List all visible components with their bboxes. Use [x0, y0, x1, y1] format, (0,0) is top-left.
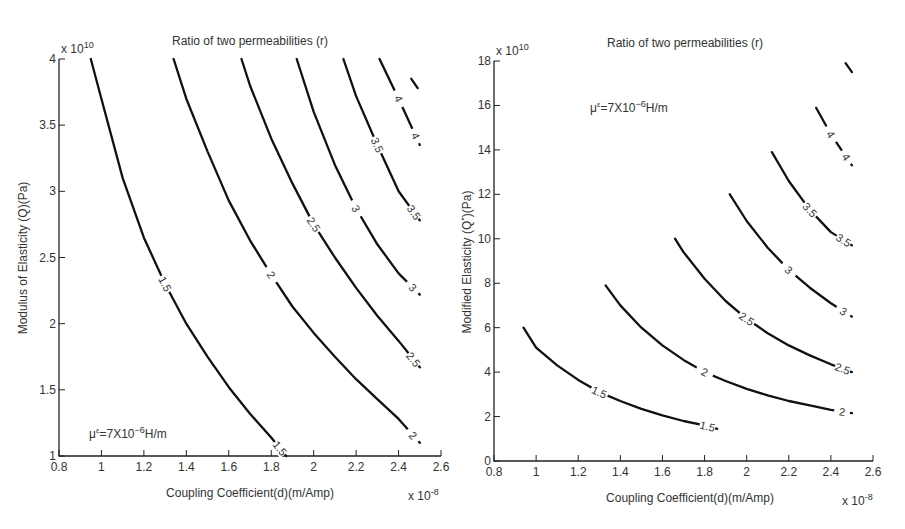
x-tick-label: 2.4	[390, 460, 407, 474]
left-mu-annotation: με=7X10−6H/m	[89, 425, 167, 441]
y-tick-label: 3.5	[39, 118, 56, 132]
x-tick-label: 2	[743, 465, 750, 479]
contour-line-r-1.5	[91, 59, 286, 456]
y-tick-label: 1.5	[39, 383, 56, 397]
contour-line-r-4.5	[411, 79, 417, 88]
y-tick-label: 10	[478, 232, 492, 246]
x-tick-label: 1	[533, 465, 540, 479]
x-tick-label: 1.4	[612, 465, 629, 479]
contour-label: 2.5	[304, 215, 322, 234]
x-tick-label: 1.8	[696, 465, 713, 479]
contour-label: 1.5	[699, 418, 717, 434]
contour-label: 2.5	[833, 360, 852, 377]
x-tick-label: 1.2	[136, 460, 153, 474]
contour-line-r-2.5	[242, 59, 420, 367]
contour-line-r-2.5	[675, 239, 852, 372]
left-x-multiplier: x 10-8	[408, 487, 439, 503]
y-tick-label: 1	[49, 449, 56, 463]
x-tick-label: 1.6	[220, 460, 237, 474]
x-tick-label: 1.4	[178, 460, 195, 474]
contour-label: 3.5	[834, 231, 853, 249]
x-tick-label: 2.2	[780, 465, 797, 479]
right-contour-lines: 1.51.5222.52.5333.53.544	[524, 63, 856, 434]
y-tick-label: 14	[478, 143, 492, 157]
x-tick-label: 1.2	[570, 465, 587, 479]
right-x-multiplier: x 10-8	[842, 492, 873, 508]
y-tick-label: 3	[49, 184, 56, 198]
y-tick-label: 12	[478, 187, 492, 201]
right-contour-plot: Ratio of two permeabilities (r) x 1010 0…	[459, 36, 882, 508]
contour-line-r-1.5	[524, 328, 718, 429]
contour-line-r-4.5	[846, 63, 852, 72]
left-y-multiplier: x 1010	[61, 40, 94, 56]
x-tick-label: 2.6	[433, 460, 450, 474]
x-tick-label: 2.4	[823, 465, 840, 479]
y-tick-label: 2	[49, 317, 56, 331]
right-mu-annotation: με=7X10−6H/m	[590, 99, 668, 115]
x-tick-label: 2.6	[865, 465, 882, 479]
left-contour-lines: 1.51.5222.52.5333.53.544	[91, 59, 425, 458]
left-y-axis-label: Modulus of Elasticity (Q)(Pa)	[16, 182, 30, 335]
y-tick-label: 4	[49, 52, 56, 66]
contour-line-r-3	[730, 194, 852, 316]
y-tick-label: 4	[484, 365, 491, 379]
y-tick-label: 2.5	[39, 251, 56, 265]
y-tick-label: 18	[478, 54, 492, 68]
x-tick-label: 2	[310, 460, 317, 474]
y-tick-label: 0	[484, 454, 491, 468]
axis-lines	[59, 59, 441, 456]
x-tick-label: 2.2	[348, 460, 365, 474]
y-tick-label: 8	[484, 276, 491, 290]
right-y-multiplier: x 1010	[496, 42, 529, 58]
left-plot-title: Ratio of two permeabilities (r)	[172, 34, 328, 48]
x-tick-label: 1.8	[263, 460, 280, 474]
right-x-axis-label: Coupling Coefficient(d)(m/Amp)	[606, 491, 774, 505]
right-plot-title: Ratio of two permeabilities (r)	[607, 36, 763, 50]
left-x-axis-label: Coupling Coefficient(d)(m/Amp)	[166, 486, 334, 500]
y-tick-label: 16	[478, 98, 492, 112]
left-contour-plot: Ratio of two permeabilities (r) x 1010 0…	[16, 34, 450, 503]
contour-label: 3.5	[405, 203, 424, 222]
y-tick-label: 2	[484, 410, 491, 424]
axis-lines	[494, 61, 873, 461]
x-tick-label: 1.6	[654, 465, 671, 479]
right-y-axis-label: Modified Elasticity (Q*)(Pa)	[459, 191, 474, 334]
y-tick-label: 6	[484, 321, 491, 335]
x-tick-label: 1	[98, 460, 105, 474]
figure: Ratio of two permeabilities (r) x 1010 0…	[0, 0, 905, 529]
